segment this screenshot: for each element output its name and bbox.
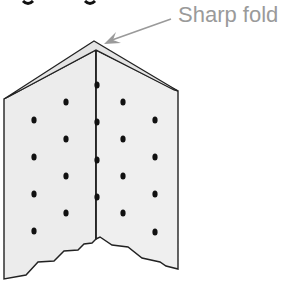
right-panel <box>96 50 178 269</box>
dot <box>94 193 99 200</box>
dot <box>120 172 125 179</box>
dot <box>63 172 68 179</box>
folded-paper-diagram: Sharp fold <box>0 0 294 283</box>
dot <box>120 135 125 142</box>
dot <box>63 135 68 142</box>
dot <box>94 156 99 163</box>
dot <box>63 98 68 105</box>
dot <box>152 116 157 123</box>
dot <box>120 98 125 105</box>
dot <box>94 118 99 125</box>
dot <box>31 153 36 160</box>
dot <box>31 227 36 234</box>
dot <box>31 190 36 197</box>
cropped-heading-fragment <box>23 1 95 4</box>
annotation-arrow <box>104 19 171 44</box>
dot <box>152 153 157 160</box>
dot <box>63 209 68 216</box>
dot <box>120 209 125 216</box>
diagram-canvas <box>0 0 294 283</box>
dot <box>152 228 157 235</box>
dot <box>94 81 99 88</box>
dot <box>31 116 36 123</box>
dot <box>152 190 157 197</box>
left-panel <box>4 50 96 279</box>
sharp-fold-label: Sharp fold <box>178 2 278 28</box>
